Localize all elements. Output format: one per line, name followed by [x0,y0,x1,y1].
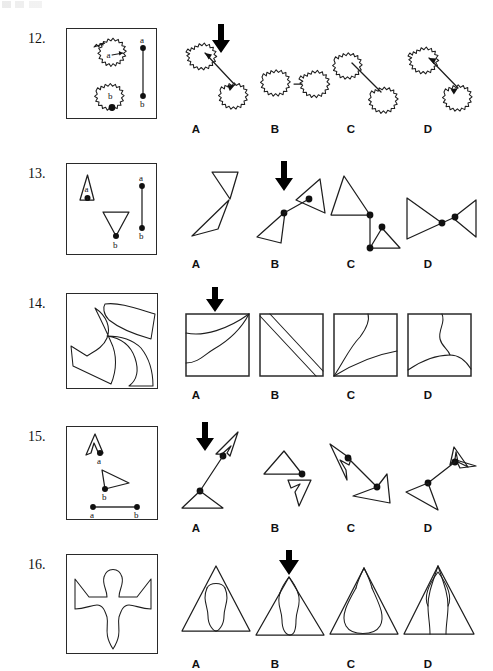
option-label-13-C: C [341,258,361,270]
option-label-16-A: A [186,658,206,670]
stimulus-label-b-13: b [113,240,118,250]
item-15: 15. a b a b [0,418,493,530]
option-label-13-D: D [418,258,438,270]
stimulus-figure-12: a b a b [67,29,158,120]
item-14: 14. [0,285,493,397]
stimulus-box-13: a b a b [66,163,157,255]
option-label-12-C: C [341,123,361,135]
option-figure-15-B[interactable] [254,418,334,522]
option-label-12-D: D [418,123,438,135]
stimulus-label-a-12: a [107,50,111,60]
option-label-14-C: C [341,389,361,401]
option-figure-13-A[interactable] [176,159,256,259]
option-figure-16-C[interactable] [326,554,406,658]
option-label-12-A: A [186,123,206,135]
option-figure-14-C[interactable] [326,285,402,389]
stimulus-label-b-15: b [102,492,107,502]
option-label-15-C: C [341,522,361,534]
ref-label-a-15: a [90,510,94,520]
stimulus-label-a-13: a [85,184,89,194]
option-figure-14-A[interactable] [178,285,254,389]
option-label-15-B: B [265,522,285,534]
option-figure-12-C[interactable] [326,22,406,124]
option-label-16-B: B [265,658,285,670]
item-number-13: 13. [28,167,46,181]
correct-answer-arrow-icon [196,422,214,451]
scan-artifact [2,1,48,8]
option-figure-14-B[interactable] [252,285,328,389]
option-figure-16-B[interactable] [252,548,332,658]
test-page: 12. a b a b [0,0,493,671]
option-figure-16-D[interactable] [400,554,482,658]
option-label-14-D: D [418,389,438,401]
option-figure-13-C[interactable] [324,159,406,259]
option-label-14-A: A [186,389,206,401]
stimulus-label-a-15: a [97,456,101,466]
stimulus-figure-16 [67,555,159,655]
ref-label-b-15: b [134,510,139,520]
stimulus-box-12: a b a b [66,28,157,119]
option-figure-14-D[interactable] [400,285,476,389]
ref-label-b-12: b [140,99,145,109]
option-figure-13-D[interactable] [398,159,484,259]
correct-answer-arrow-icon [206,287,224,312]
option-figure-12-B[interactable] [252,22,332,124]
option-figure-13-B[interactable] [248,155,334,259]
option-figure-16-A[interactable] [176,554,256,658]
correct-answer-arrow-icon [275,161,293,191]
item-number-14: 14. [28,297,46,311]
stimulus-figure-14 [67,294,159,390]
stimulus-box-15: a b a b [66,426,158,520]
item-16: 16. [0,548,493,666]
correct-answer-arrow-icon [212,24,230,53]
item-13: 13. a b a b [0,155,493,267]
option-label-15-D: D [418,522,438,534]
correct-answer-arrow-icon [279,550,299,575]
item-number-12: 12. [28,32,46,46]
option-figure-15-D[interactable] [398,418,484,522]
item-number-15: 15. [28,430,46,444]
option-label-16-C: C [341,658,361,670]
option-label-13-B: B [265,258,285,270]
stimulus-box-16 [66,554,158,654]
option-figure-15-A[interactable] [178,418,258,522]
ref-label-a-13: a [139,173,143,183]
stimulus-label-b-12: b [108,91,113,101]
ref-label-b-13: b [139,231,144,241]
stimulus-figure-15: a b a b [67,427,159,521]
option-figure-12-A[interactable] [178,22,256,124]
option-figure-12-D[interactable] [398,22,484,124]
item-number-16: 16. [28,558,46,572]
ref-label-a-12: a [140,35,144,45]
stimulus-box-14 [66,293,158,389]
option-label-14-B: B [265,389,285,401]
option-label-16-D: D [418,658,438,670]
option-label-12-B: B [265,123,285,135]
option-label-13-A: A [186,258,206,270]
item-12: 12. a b a b [0,22,493,132]
option-label-15-A: A [186,522,206,534]
stimulus-figure-13: a b a b [67,164,158,256]
